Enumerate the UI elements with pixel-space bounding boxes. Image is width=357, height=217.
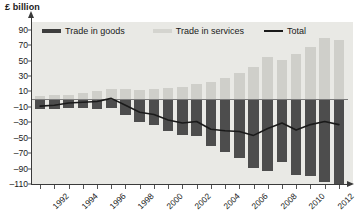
legend-item-services: Trade in services (153, 26, 244, 36)
x-axis-tick-label: 1992 (51, 191, 71, 211)
x-axis-tick-mark (239, 185, 240, 189)
y-axis-tick-label: –70 (2, 148, 28, 158)
x-axis-tick-label: 2008 (278, 191, 298, 211)
bar-trade-in-services (106, 89, 117, 99)
bar-trade-in-services (248, 67, 259, 99)
bar-trade-in-services (291, 54, 302, 99)
x-axis-tick-mark (140, 185, 141, 189)
x-axis-tick-mark (54, 185, 55, 189)
bar-trade-in-goods (291, 99, 302, 175)
x-axis-tick-label: 2010 (307, 191, 327, 211)
x-axis-tick-mark (83, 185, 84, 189)
bar-trade-in-goods (191, 99, 202, 136)
x-axis-tick-mark (282, 185, 283, 189)
y-axis-tick-label: –10 (2, 102, 28, 112)
bar-trade-in-services (206, 82, 217, 99)
bar-trade-in-goods (35, 99, 46, 109)
bar-trade-in-goods (220, 99, 231, 152)
x-axis-tick-label: 2002 (193, 191, 213, 211)
bar-trade-in-goods (305, 99, 316, 176)
legend-label-services: Trade in services (176, 26, 244, 36)
bar-trade-in-goods (334, 99, 345, 184)
bar-trade-in-services (277, 60, 288, 99)
bar-trade-in-services (149, 89, 160, 99)
x-axis-tick-mark (310, 185, 311, 189)
x-axis-tick-label: 2006 (250, 191, 270, 211)
x-axis-tick-mark (211, 185, 212, 189)
legend-swatch-services-icon (153, 29, 172, 34)
chart-container: £ billion 9070503010–10–30–50–70–90–110 … (0, 0, 357, 217)
x-axis-tick-mark (254, 185, 255, 189)
y-axis-tick-label: –50 (2, 133, 28, 143)
y-axis-tick-label: 10 (2, 86, 28, 96)
x-axis-tick-mark (97, 185, 98, 189)
bar-trade-in-goods (206, 99, 217, 146)
bar-trade-in-services (319, 38, 330, 99)
bar-trade-in-services (92, 91, 103, 99)
x-axis-tick-mark (325, 185, 326, 189)
bar-trade-in-goods (319, 99, 330, 182)
y-axis-tick-label: 90 (2, 25, 28, 35)
legend-label-goods: Trade in goods (65, 26, 125, 36)
legend-swatch-total-icon (264, 30, 283, 32)
y-axis-tick-label: –90 (2, 164, 28, 174)
bar-trade-in-goods (92, 99, 103, 109)
x-axis-tick-mark (69, 185, 70, 189)
legend-label-total: Total (287, 26, 306, 36)
x-axis-line (31, 184, 348, 185)
legend-item-total: Total (264, 26, 306, 36)
bar-trade-in-services (120, 89, 131, 99)
bar-trade-in-services (163, 88, 174, 99)
x-axis-tick-mark (40, 185, 41, 189)
x-axis-tick-mark (197, 185, 198, 189)
bar-trade-in-goods (262, 99, 273, 171)
x-axis-tick-mark (182, 185, 183, 189)
x-axis-tick-mark (268, 185, 269, 189)
bar-trade-in-goods (120, 99, 131, 115)
bar-trade-in-services (177, 87, 188, 99)
bar-trade-in-services (191, 84, 202, 99)
legend-swatch-goods-icon (42, 29, 61, 34)
x-axis-tick-mark (296, 185, 297, 189)
x-axis-tick-mark (339, 185, 340, 189)
bar-trade-in-services (234, 73, 245, 99)
x-axis-tick-label: 1996 (107, 191, 127, 211)
x-axis-tick-label: 1994 (79, 191, 99, 211)
x-axis-tick-mark (111, 185, 112, 189)
y-axis-tick-group: 9070503010–10–30–50–70–90–110 (0, 0, 28, 217)
zero-baseline (31, 99, 348, 100)
bar-trade-in-goods (234, 99, 245, 158)
bar-trade-in-goods (177, 99, 188, 135)
bar-trade-in-goods (163, 99, 174, 131)
x-axis-tick-mark (168, 185, 169, 189)
x-axis-tick-label: 2012 (335, 191, 355, 211)
x-axis-tick-mark (154, 185, 155, 189)
y-axis-arrow-icon (28, 11, 34, 18)
bar-trade-in-goods (63, 99, 74, 107)
legend-item-goods: Trade in goods (42, 26, 125, 36)
y-axis-tick-label: –110 (2, 179, 28, 189)
bar-trade-in-goods (277, 99, 288, 162)
bar-trade-in-services (334, 40, 345, 99)
bar-trade-in-goods (248, 99, 259, 168)
x-axis-tick-label: 2000 (164, 191, 184, 211)
y-axis-tick-label: –30 (2, 117, 28, 127)
x-axis-tick-label: 1998 (136, 191, 156, 211)
chart-legend: Trade in goods Trade in services Total (42, 26, 306, 36)
bar-trade-in-goods (106, 99, 117, 108)
x-axis-tick-mark (225, 185, 226, 189)
y-axis-tick-label: 30 (2, 71, 28, 81)
bar-trade-in-goods (149, 99, 160, 124)
bar-trade-in-services (262, 57, 273, 99)
x-axis-tick-mark (125, 185, 126, 189)
x-axis-tick-label: 2004 (221, 191, 241, 211)
y-axis-tick-label: 70 (2, 40, 28, 50)
bar-trade-in-goods (49, 99, 60, 109)
bar-trade-in-services (220, 78, 231, 100)
bar-trade-in-services (305, 47, 316, 99)
bar-trade-in-goods (78, 99, 89, 108)
bar-trade-in-goods (134, 99, 145, 121)
x-axis-arrow-icon (347, 181, 354, 187)
bar-trade-in-services (134, 90, 145, 99)
y-axis-line (31, 17, 32, 184)
